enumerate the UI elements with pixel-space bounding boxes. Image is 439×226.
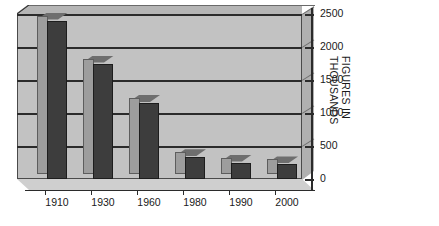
bar-front-face-1960 xyxy=(139,103,159,179)
bar-front-face-2000 xyxy=(277,164,297,179)
y-tick-label-500: 500 xyxy=(320,140,338,151)
x-axis-line xyxy=(25,190,315,191)
plot-area xyxy=(17,14,314,190)
bars-layer xyxy=(17,14,314,190)
y-tick-label-0: 0 xyxy=(320,173,326,184)
x-tick-1910 xyxy=(45,190,46,195)
y-axis-line xyxy=(311,8,313,190)
x-tick-1930 xyxy=(91,190,92,195)
bar-front-face-1910 xyxy=(47,21,67,179)
x-tick-label-1910: 1910 xyxy=(34,196,80,208)
y-axis-title: FIGURES IN THOUSANDS xyxy=(328,56,352,136)
y-tick-500 xyxy=(305,146,314,148)
x-tick-label-2000: 2000 xyxy=(264,196,310,208)
y-axis-title-line-2: THOUSANDS xyxy=(328,56,340,136)
y-axis-title-line-1: FIGURES IN xyxy=(340,56,352,136)
y-tick-label-2500: 2500 xyxy=(320,8,343,19)
bar-front-face-1980 xyxy=(185,157,205,179)
x-tick-1980 xyxy=(183,190,184,195)
x-tick-label-1990: 1990 xyxy=(218,196,264,208)
y-tick-0 xyxy=(305,179,314,181)
y-tick-2000 xyxy=(305,47,314,49)
x-tick-label-1930: 1930 xyxy=(80,196,126,208)
bar-front-face-1990 xyxy=(231,163,251,180)
bar-front-face-1930 xyxy=(93,64,113,180)
x-tick-2000 xyxy=(275,190,276,195)
x-tick-label-1960: 1960 xyxy=(126,196,172,208)
y-tick-label-2000: 2000 xyxy=(320,41,343,52)
y-tick-1000 xyxy=(305,113,314,115)
y-tick-2500 xyxy=(305,14,314,16)
y-tick-1500 xyxy=(305,80,314,82)
x-tick-label-1980: 1980 xyxy=(172,196,218,208)
bar-chart: 05001000150020002500 1910193019601980199… xyxy=(0,0,439,226)
x-tick-1990 xyxy=(229,190,230,195)
x-tick-1960 xyxy=(137,190,138,195)
